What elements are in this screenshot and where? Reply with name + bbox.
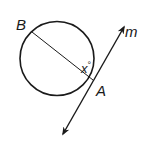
line-m-label: m bbox=[125, 23, 138, 40]
angle-x-label: x° bbox=[80, 60, 92, 76]
point-a-label: A bbox=[95, 82, 106, 99]
degree-symbol: ° bbox=[88, 60, 92, 70]
point-b-label: B bbox=[16, 16, 26, 33]
geometry-diagram: B A m x° bbox=[0, 0, 142, 141]
tangent-line-m bbox=[63, 27, 124, 134]
circle bbox=[20, 22, 94, 96]
